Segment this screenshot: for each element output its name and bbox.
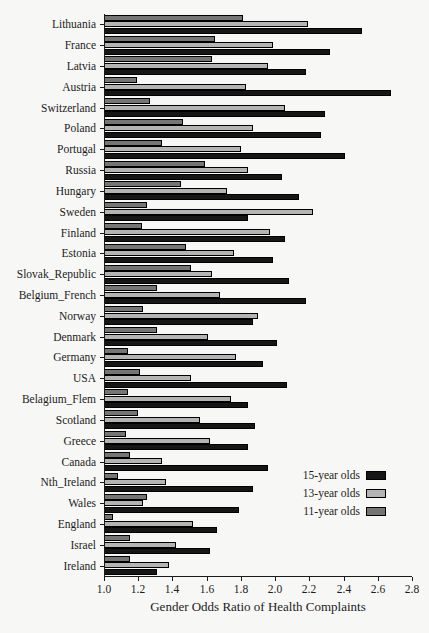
bar-15-year-olds <box>104 402 248 408</box>
bar-15-year-olds <box>104 215 248 221</box>
y-axis-tick <box>100 378 104 379</box>
y-axis-tick <box>100 212 104 213</box>
category-label: Poland <box>0 122 96 134</box>
y-axis-tick <box>100 149 104 150</box>
y-axis-tick <box>100 545 104 546</box>
bar-13-year-olds <box>104 396 231 402</box>
bar-11-year-olds <box>104 494 147 500</box>
x-axis-tick <box>241 577 242 581</box>
category-label: Norway <box>0 310 96 322</box>
x-axis-tick <box>412 577 413 581</box>
bar-13-year-olds <box>104 334 208 340</box>
bar-15-year-olds <box>104 111 325 117</box>
bar-11-year-olds <box>104 369 140 375</box>
bar-11-year-olds <box>104 431 126 437</box>
bar-15-year-olds <box>104 132 321 138</box>
bar-11-year-olds <box>104 514 113 520</box>
y-axis-tick <box>100 274 104 275</box>
bar-13-year-olds <box>104 209 313 215</box>
x-axis-tick <box>378 577 379 581</box>
category-label: Finland <box>0 227 96 239</box>
bar-15-year-olds <box>104 28 362 34</box>
x-axis-tick-label: 2.2 <box>292 583 326 595</box>
legend: 15-year olds13-year olds11-year olds <box>276 466 386 520</box>
bar-11-year-olds <box>104 77 137 83</box>
y-axis-tick <box>100 191 104 192</box>
bar-15-year-olds <box>104 340 277 346</box>
y-axis-tick <box>100 45 104 46</box>
category-label: Wales <box>0 497 96 509</box>
bar-13-year-olds <box>104 438 210 444</box>
bar-13-year-olds <box>104 375 191 381</box>
bar-13-year-olds <box>104 500 143 506</box>
bar-11-year-olds <box>104 452 130 458</box>
category-label: France <box>0 39 96 51</box>
y-axis-tick <box>100 337 104 338</box>
bar-11-year-olds <box>104 181 181 187</box>
x-axis-tick-label: 2.4 <box>327 583 361 595</box>
bar-13-year-olds <box>104 292 220 298</box>
category-label: Switzerland <box>0 102 96 114</box>
bar-11-year-olds <box>104 15 243 21</box>
category-label: Israel <box>0 539 96 551</box>
category-label: Ireland <box>0 560 96 572</box>
bar-15-year-olds <box>104 278 289 284</box>
bar-15-year-olds <box>104 569 157 575</box>
bar-15-year-olds <box>104 382 287 388</box>
bar-11-year-olds <box>104 98 150 104</box>
category-label: Belgium_French <box>0 289 96 301</box>
category-label: USA <box>0 372 96 384</box>
y-axis-line <box>104 14 105 577</box>
bar-13-year-olds <box>104 313 258 319</box>
category-label: Greece <box>0 435 96 447</box>
x-axis-tick <box>138 577 139 581</box>
y-axis-tick <box>100 462 104 463</box>
bar-11-year-olds <box>104 306 143 312</box>
category-label: Germany <box>0 351 96 363</box>
bar-11-year-olds <box>104 36 215 42</box>
y-axis-tick <box>100 399 104 400</box>
x-axis-tick-label: 2.8 <box>395 583 429 595</box>
category-label: Slovak_Republic <box>0 268 96 280</box>
bar-13-year-olds <box>104 125 253 131</box>
bar-15-year-olds <box>104 298 306 304</box>
x-axis-tick <box>344 577 345 581</box>
bar-11-year-olds <box>104 244 186 250</box>
legend-swatch <box>366 471 386 480</box>
bar-13-year-olds <box>104 105 285 111</box>
y-axis-tick <box>100 524 104 525</box>
y-axis-tick <box>100 24 104 25</box>
bar-13-year-olds <box>104 562 169 568</box>
category-label: Latvia <box>0 60 96 72</box>
bar-15-year-olds <box>104 548 210 554</box>
x-axis-tick <box>275 577 276 581</box>
legend-swatch <box>366 489 386 498</box>
y-axis-tick <box>100 503 104 504</box>
y-axis-tick <box>100 87 104 88</box>
legend-row: 13-year olds <box>276 484 386 502</box>
legend-row: 15-year olds <box>276 466 386 484</box>
y-axis-tick <box>100 566 104 567</box>
y-axis-tick <box>100 441 104 442</box>
category-label: Estonia <box>0 247 96 259</box>
category-label: Sweden <box>0 206 96 218</box>
bar-11-year-olds <box>104 161 205 167</box>
bar-13-year-olds <box>104 63 268 69</box>
bar-13-year-olds <box>104 458 162 464</box>
bar-15-year-olds <box>104 194 299 200</box>
x-axis-tick <box>104 577 105 581</box>
bar-11-year-olds <box>104 140 162 146</box>
category-label: England <box>0 518 96 530</box>
legend-label: 11-year olds <box>303 505 360 517</box>
bar-11-year-olds <box>104 556 130 562</box>
x-axis-tick-label: 2.0 <box>258 583 292 595</box>
x-axis-tick <box>207 577 208 581</box>
x-axis-tick-label: 1.8 <box>224 583 258 595</box>
bar-15-year-olds <box>104 507 239 513</box>
bar-15-year-olds <box>104 49 330 55</box>
bar-15-year-olds <box>104 423 255 429</box>
bar-15-year-olds <box>104 444 248 450</box>
bar-13-year-olds <box>104 21 308 27</box>
x-axis-tick-label: 1.6 <box>190 583 224 595</box>
legend-label: 13-year olds <box>303 487 360 499</box>
